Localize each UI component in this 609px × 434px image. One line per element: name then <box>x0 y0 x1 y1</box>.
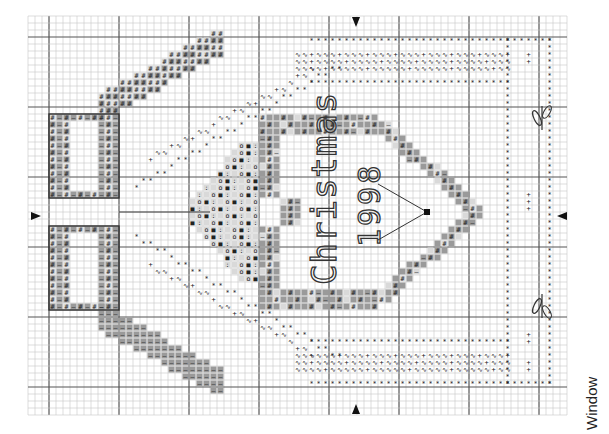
svg-text:∿: ∿ <box>379 366 385 374</box>
svg-text:∿: ∿ <box>421 65 427 73</box>
svg-text:*: * <box>295 86 299 94</box>
svg-text:*: * <box>470 338 474 346</box>
svg-text:o: o <box>205 233 209 241</box>
svg-text:*: * <box>414 79 418 87</box>
svg-text:∿: ∿ <box>372 65 378 73</box>
svg-text:*: * <box>491 380 495 388</box>
svg-text:∿: ∿ <box>393 366 399 374</box>
svg-text:—: — <box>142 324 146 332</box>
svg-text:—: — <box>184 373 188 381</box>
svg-text:+: + <box>526 205 530 213</box>
svg-text:—: — <box>219 373 223 381</box>
svg-text::: : <box>240 247 244 255</box>
svg-text:—: — <box>261 184 265 192</box>
svg-text:∿: ∿ <box>421 366 427 374</box>
svg-text:—: — <box>135 324 139 332</box>
svg-text:∿: ∿ <box>393 65 399 73</box>
svg-text:+: + <box>407 65 411 73</box>
svg-text:∿: ∿ <box>337 366 343 374</box>
svg-text:+: + <box>169 142 173 150</box>
svg-text:—: — <box>142 345 146 353</box>
svg-text:*: * <box>428 79 432 87</box>
svg-text:#: # <box>464 219 468 227</box>
svg-text:#: # <box>450 233 454 241</box>
svg-text:∿: ∿ <box>302 72 308 80</box>
svg-text:∿: ∿ <box>330 65 336 73</box>
svg-text:*: * <box>463 79 467 87</box>
svg-text:—: — <box>219 366 223 374</box>
svg-text:*: * <box>183 261 187 269</box>
svg-text:*: * <box>155 170 159 178</box>
svg-text:—: — <box>128 338 132 346</box>
svg-text:—: — <box>184 366 188 374</box>
svg-text:#: # <box>289 121 293 129</box>
svg-text:∿: ∿ <box>218 114 224 122</box>
svg-text:#: # <box>282 114 286 122</box>
svg-text:∿: ∿ <box>470 366 476 374</box>
svg-text:*: * <box>204 275 208 283</box>
svg-text:—: — <box>135 345 139 353</box>
svg-text:*: * <box>533 37 537 45</box>
svg-text:#: # <box>128 100 132 108</box>
svg-text:*: * <box>393 37 397 45</box>
svg-text:*: * <box>421 79 425 87</box>
svg-text:*: * <box>442 380 446 388</box>
svg-text:#: # <box>268 121 272 129</box>
svg-text::: : <box>233 254 237 262</box>
svg-text:+: + <box>526 338 530 346</box>
svg-text:o: o <box>233 233 237 241</box>
svg-text:—: — <box>191 373 195 381</box>
svg-text:#: # <box>394 289 398 297</box>
svg-text:—: — <box>471 219 475 227</box>
svg-text:*: * <box>414 338 418 346</box>
svg-text:*: * <box>309 380 313 388</box>
svg-text:#: # <box>331 303 335 311</box>
svg-text::: : <box>226 219 230 227</box>
svg-text:∿: ∿ <box>484 366 490 374</box>
svg-text:∿: ∿ <box>484 65 490 73</box>
svg-text:*: * <box>533 380 537 388</box>
svg-text:*: * <box>155 247 159 255</box>
svg-text:—: — <box>156 352 160 360</box>
svg-text:#: # <box>219 51 223 59</box>
svg-text:*: * <box>351 380 355 388</box>
svg-text:—: — <box>205 380 209 388</box>
svg-text:+: + <box>190 282 194 290</box>
svg-text:∿: ∿ <box>442 65 448 73</box>
svg-text:#: # <box>212 51 216 59</box>
svg-text:o: o <box>212 240 216 248</box>
svg-text:*: * <box>379 37 383 45</box>
svg-text:∿: ∿ <box>435 65 441 73</box>
svg-text:#: # <box>310 289 314 297</box>
chart-caption: Window <box>583 377 600 430</box>
svg-text:—: — <box>142 331 146 339</box>
svg-text:*: * <box>442 79 446 87</box>
svg-text:*: * <box>351 79 355 87</box>
svg-text:∿: ∿ <box>162 149 168 157</box>
svg-text:*: * <box>211 282 215 290</box>
svg-text:*: * <box>337 37 341 45</box>
svg-text:∿: ∿ <box>330 366 336 374</box>
svg-text:+: + <box>526 366 530 374</box>
svg-text:*: * <box>540 37 544 45</box>
svg-text:#: # <box>121 100 125 108</box>
svg-text:*: * <box>393 79 397 87</box>
svg-text:#: # <box>450 184 454 192</box>
svg-text:#: # <box>79 114 83 122</box>
svg-text:∿: ∿ <box>351 65 357 73</box>
svg-text:—: — <box>121 338 125 346</box>
svg-text:■: ■ <box>254 275 258 283</box>
svg-text:—: — <box>156 338 160 346</box>
svg-text:*: * <box>435 79 439 87</box>
svg-text:∿: ∿ <box>309 65 315 73</box>
svg-text:*: * <box>386 79 390 87</box>
svg-text:*: * <box>491 37 495 45</box>
svg-text:*: * <box>505 37 509 45</box>
svg-text:—: — <box>170 352 174 360</box>
svg-text:—: — <box>191 359 195 367</box>
svg-text:∿: ∿ <box>435 366 441 374</box>
svg-text:∿: ∿ <box>204 128 210 136</box>
svg-text:∿: ∿ <box>288 79 294 87</box>
svg-text:—: — <box>86 226 90 234</box>
svg-text:*: * <box>414 380 418 388</box>
